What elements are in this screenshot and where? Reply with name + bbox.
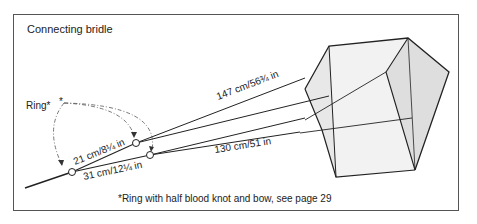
ring-front <box>69 169 76 176</box>
bridle-diagram: * 147 cm/56¾ in 130 cm/51 in 21 cm/8¼ in… <box>0 0 477 224</box>
label-147cm: 147 cm/56¾ in <box>215 68 280 102</box>
label-31cm: 31 cm/12¼ in <box>82 159 143 182</box>
ring-asterisk-marker: * <box>59 96 63 107</box>
ring-lower <box>147 152 154 159</box>
ring-upper <box>133 140 140 147</box>
box-kite-illustration <box>300 38 449 177</box>
